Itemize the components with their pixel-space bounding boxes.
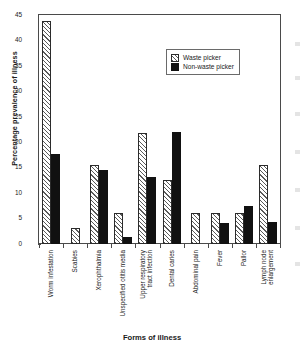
y-axis-tick-label: 10 [0,190,22,196]
y-axis-tick-label: 45 [0,12,22,18]
bar-non-waste-picker [123,237,132,244]
bar-group [256,15,280,244]
bar-waste-picker [163,180,172,244]
legend-item-non-waste-picker: Non-waste picker [171,62,234,71]
bar-waste-picker [90,165,99,244]
x-axis-tick-label: Abdominal pain [192,250,199,293]
bar-non-waste-picker [244,206,253,244]
x-axis-tick-mark [39,244,40,248]
x-axis-tick-label: Worm infestation [48,250,55,297]
x-axis-label-cell: Fever [208,250,232,328]
x-axis-tick-label-line: Fever [216,250,223,266]
legend-label: Non-waste picker [183,63,234,70]
page-edge-mark [295,262,300,266]
bar-non-waste-picker [220,223,229,244]
bar-group [135,15,159,244]
bar-waste-picker [259,165,268,244]
y-axis-tick-label: 15 [0,164,22,170]
bar-groups [39,15,280,244]
bar-waste-picker [42,21,51,244]
page-edge-mark [295,226,300,230]
y-axis-tick-label: 5 [0,215,22,221]
bar-waste-picker [114,213,123,244]
x-axis-tick-label: Scabies [72,250,79,272]
x-axis-label-cell: Worm infestation [39,250,63,328]
page-edge-mark [295,188,300,192]
x-axis-tick-labels: Worm infestationScabiesXerophthalmiaUnsp… [39,250,280,328]
x-axis-tick-mark [160,244,161,248]
y-axis-tick-label: 35 [0,63,22,69]
bar-waste-picker [138,133,147,244]
x-axis-tick-label-line: Dental caries [168,250,175,287]
x-axis-tick-mark [63,244,64,248]
y-axis-tick-label: 20 [0,139,22,145]
x-axis-tick-label-line: tract infection [147,250,154,299]
x-axis-tick-mark [208,244,209,248]
x-axis-tick-label: Upper respiratorytract infection [141,250,154,299]
x-axis-tick-label-line: Scabies [72,250,79,272]
x-axis-tick-mark [232,244,233,248]
bar-non-waste-picker [147,177,156,244]
x-axis-tick-label: Fever [216,250,223,266]
bar-non-waste-picker [268,222,277,244]
page-edge-mark [295,150,300,154]
legend-swatch-solid-icon [171,63,179,71]
x-axis-tick-mark [111,244,112,248]
x-axis-label-cell: Pallor [232,250,256,328]
x-axis-tick-label-line: Unspecified otitis media [120,250,127,317]
x-axis-tick-mark [135,244,136,248]
page-edge-mark [295,112,300,116]
x-axis-tick-label-line: enlargement [268,250,275,285]
y-axis-tick-label: 30 [0,88,22,94]
bar-non-waste-picker [51,154,60,244]
x-axis-label-cell: Lymph nodeenlargement [256,250,280,328]
x-axis-tick-label: Pallor [241,250,248,266]
bar-group [111,15,135,244]
y-axis-tick-label: 40 [0,37,22,43]
x-axis-label-cell: Scabies [63,250,87,328]
figure-chart: Percentage prevalence of illness 0510152… [0,0,304,355]
bar-non-waste-picker [172,132,181,244]
x-axis-tick-mark [256,244,257,248]
bar-group [87,15,111,244]
bar-group [63,15,87,244]
bar-waste-picker [191,213,200,244]
bar-waste-picker [235,213,244,244]
bar-group [39,15,63,244]
legend-label: Waste picker [183,54,221,61]
x-axis-tick-label: Unspecified otitis media [120,250,127,317]
page-edge-mark [295,42,300,46]
y-axis-tick-label: 25 [0,114,22,120]
x-axis-label-cell: Unspecified otitis media [111,250,135,328]
x-axis-label-cell: Dental caries [159,250,183,328]
page-edge-mark [295,76,300,80]
x-axis-tick-label: Lymph nodeenlargement [261,250,274,285]
legend-item-waste-picker: Waste picker [171,53,234,62]
legend: Waste picker Non-waste picker [166,49,240,75]
bar-waste-picker [71,228,80,244]
x-axis-label-cell: Upper respiratorytract infection [135,250,159,328]
figure-caption [6,345,246,351]
bar-waste-picker [211,213,220,244]
x-axis-title: Forms of illness [0,333,304,342]
x-axis-tick-label: Dental caries [168,250,175,287]
x-axis-tick-label-line: Pallor [241,250,248,266]
x-axis-label-cell: Abdominal pain [184,250,208,328]
x-axis-tick-label-line: Xerophthalmia [96,250,103,291]
y-axis-tick-label: 0 [0,241,22,247]
x-axis-label-cell: Xerophthalmia [87,250,111,328]
legend-swatch-hatched-icon [171,54,179,62]
bar-non-waste-picker [99,170,108,244]
x-axis-tick-label: Xerophthalmia [96,250,103,291]
x-axis-tick-mark [87,244,88,248]
x-axis-tick-label-line: Worm infestation [48,250,55,297]
x-axis-tick-mark [280,244,281,248]
x-axis-tick-label-line: Abdominal pain [192,250,199,293]
x-axis-tick-mark [184,244,185,248]
